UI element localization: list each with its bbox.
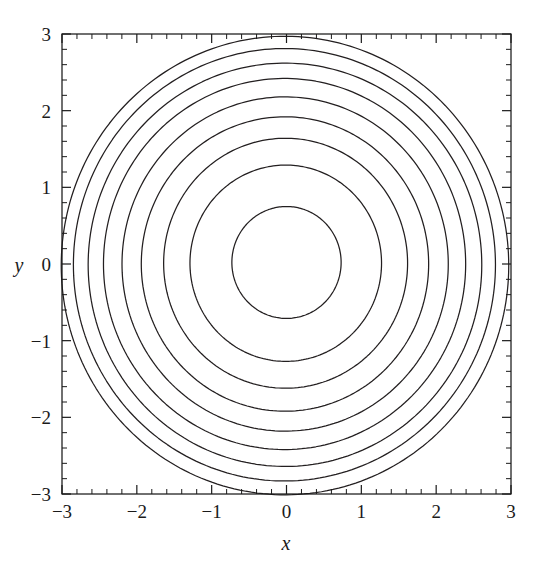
y-tick-label: 0 [42, 254, 52, 275]
y-tick-label: 3 [42, 24, 52, 45]
x-tick-label: −1 [202, 501, 222, 522]
contour-plot-figure: −3−2−10123−3−2−10123 x y [0, 0, 534, 567]
x-axis-title: x [281, 532, 291, 554]
x-tick-label: 2 [431, 501, 441, 522]
x-tick-label: 1 [357, 501, 367, 522]
y-tick-label: −2 [31, 407, 51, 428]
x-tick-label: −2 [127, 501, 147, 522]
y-axis-title: y [13, 254, 24, 277]
plot-svg: −3−2−10123−3−2−10123 x y [0, 0, 534, 567]
y-tick-label: −1 [31, 331, 51, 352]
y-tick-label: 1 [42, 177, 52, 198]
y-tick-label: 2 [42, 101, 52, 122]
figure-background [0, 0, 534, 567]
y-tick-label: −3 [31, 484, 51, 505]
x-tick-label: −3 [52, 501, 72, 522]
x-tick-label: 3 [506, 501, 516, 522]
x-tick-label: 0 [282, 501, 292, 522]
